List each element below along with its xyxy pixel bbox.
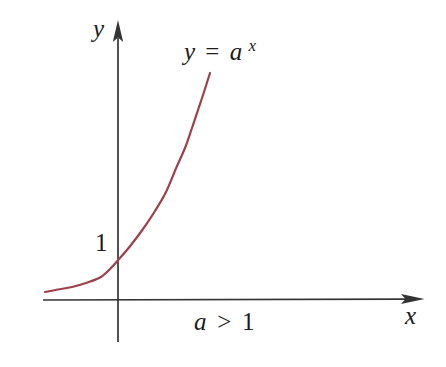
equation-exponent: x <box>247 36 256 55</box>
condition-label: a > 1 <box>194 308 255 335</box>
figure-canvas: y x 1 y = a x a > 1 <box>0 0 446 367</box>
condition-value: 1 <box>242 308 255 335</box>
curve-equation-label: y = a x <box>181 36 256 65</box>
exponential-curve <box>45 73 210 292</box>
plot-svg: y x 1 y = a x a > 1 <box>0 0 446 367</box>
x-axis-label-text: x <box>404 302 416 329</box>
y-unit-tick-label: 1 <box>95 229 108 256</box>
y-axis-label: y <box>90 15 105 42</box>
equation-base: a <box>230 38 243 65</box>
condition-variable: a <box>194 308 207 335</box>
equation-equals-sign: = <box>205 38 219 65</box>
x-axis-line <box>43 299 407 300</box>
x-axis-label: x <box>404 302 416 329</box>
equation-lhs: y <box>181 38 196 65</box>
condition-operator: > <box>217 308 231 335</box>
y-axis-label-text: y <box>90 15 105 42</box>
y-unit-tick-text: 1 <box>95 229 108 256</box>
